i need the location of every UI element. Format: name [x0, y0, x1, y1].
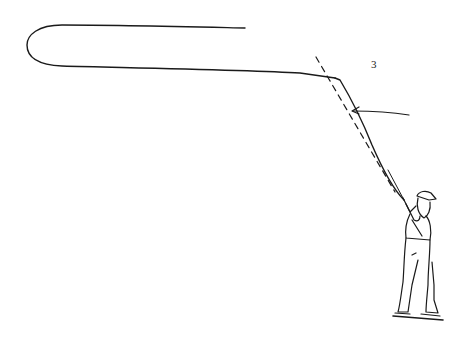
fisherman-figure — [393, 191, 443, 320]
fly-rod — [335, 78, 404, 200]
rod-reference-dashed-line — [316, 57, 395, 192]
casting-illustration — [0, 0, 466, 345]
force-arrow-icon — [353, 111, 409, 115]
fly-line-loop — [27, 25, 335, 78]
